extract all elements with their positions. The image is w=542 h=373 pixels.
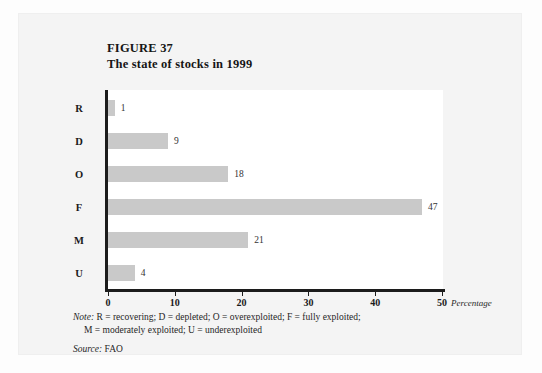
category-label-u: U xyxy=(59,267,99,278)
figure-panel: FIGURE 37 The state of stocks in 1999 R1… xyxy=(19,14,521,354)
x-axis-title: Percentage xyxy=(451,298,492,308)
bar-row: M21 xyxy=(19,223,542,256)
figure-number: FIGURE 37 xyxy=(107,40,437,56)
note-label: Note: xyxy=(73,312,94,322)
bar-value-u: 4 xyxy=(141,268,146,278)
bar-r xyxy=(108,100,115,116)
category-label-d: D xyxy=(59,136,99,147)
note-line-2: M = moderately exploited; U = underexplo… xyxy=(73,324,513,337)
x-tick-30 xyxy=(308,292,309,296)
x-tick-label-0: 0 xyxy=(88,297,128,308)
bar-row: O18 xyxy=(19,158,542,191)
bar-value-r: 1 xyxy=(121,103,126,113)
x-tick-40 xyxy=(375,292,376,296)
bar-o xyxy=(108,166,228,182)
x-tick-label-30: 30 xyxy=(288,297,328,308)
category-label-f: F xyxy=(59,201,99,212)
bar-value-o: 18 xyxy=(234,169,244,179)
x-tick-10 xyxy=(175,292,176,296)
bar-u xyxy=(108,265,135,281)
note-text-1: R = recovering; D = depleted; O = overex… xyxy=(94,312,361,322)
bar-row: R1 xyxy=(19,92,542,125)
bar-row: D9 xyxy=(19,125,542,158)
x-tick-50 xyxy=(442,292,443,296)
category-label-m: M xyxy=(59,234,99,245)
bar-row: U4 xyxy=(19,256,542,289)
x-tick-label-20: 20 xyxy=(222,297,262,308)
bar-value-d: 9 xyxy=(174,136,179,146)
x-tick-0 xyxy=(108,292,109,296)
bar-row: F47 xyxy=(19,191,542,224)
category-label-o: O xyxy=(59,169,99,180)
source-label: Source: xyxy=(73,344,102,354)
figure-subtitle: The state of stocks in 1999 xyxy=(107,56,437,72)
footnotes: Note: R = recovering; D = depleted; O = … xyxy=(73,311,513,356)
x-tick-20 xyxy=(242,292,243,296)
x-tick-label-10: 10 xyxy=(155,297,195,308)
bar-m xyxy=(108,232,248,248)
figure-title-block: FIGURE 37 The state of stocks in 1999 xyxy=(107,40,437,72)
bar-value-m: 21 xyxy=(254,235,264,245)
note-line-1: Note: R = recovering; D = depleted; O = … xyxy=(73,311,513,324)
category-label-r: R xyxy=(59,103,99,114)
source-line: Source: FAO xyxy=(73,343,513,356)
x-axis-line xyxy=(105,289,445,292)
scanned-page: FIGURE 37 The state of stocks in 1999 R1… xyxy=(0,0,542,373)
bar-value-f: 47 xyxy=(428,202,438,212)
bar-f xyxy=(108,199,422,215)
source-text: FAO xyxy=(102,344,123,354)
x-tick-label-40: 40 xyxy=(355,297,395,308)
bar-d xyxy=(108,133,168,149)
